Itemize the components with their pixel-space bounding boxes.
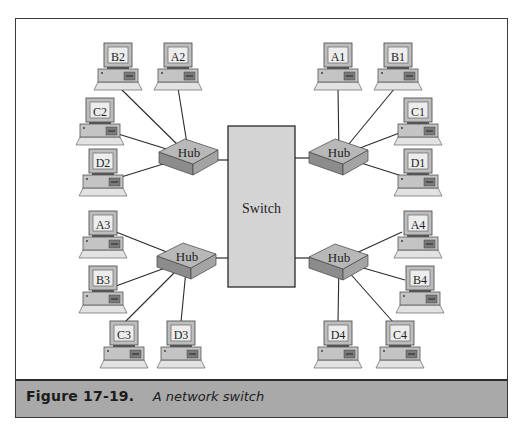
computer-b3: B3 — [79, 266, 127, 313]
keyboard-icon — [396, 305, 444, 313]
computer-label: D4 — [331, 328, 346, 342]
computer-label: C3 — [117, 328, 131, 342]
keyboard-icon — [374, 82, 422, 90]
computer-a2: A2 — [154, 43, 202, 90]
computer-d4: D4 — [314, 321, 362, 368]
computer-d2: D2 — [79, 149, 127, 196]
power-led-icon — [107, 350, 109, 352]
keyboard-icon — [79, 188, 127, 196]
switch-label: Switch — [242, 201, 281, 216]
hub-bottom-right: Hub — [309, 244, 368, 280]
computer-a4: A4 — [394, 211, 442, 258]
power-led-icon — [321, 72, 323, 74]
computer-d1: D1 — [394, 149, 442, 196]
computer-label: A2 — [171, 50, 186, 64]
computer-label: C1 — [411, 105, 425, 119]
keyboard-icon — [100, 360, 148, 368]
computer-c3: C3 — [100, 321, 148, 368]
power-led-icon — [401, 178, 403, 180]
power-led-icon — [83, 127, 85, 129]
power-led-icon — [86, 178, 88, 180]
network-diagram: Switch HubHubHubHub B2A2C2D2A1B1C1D1A3B3… — [0, 0, 526, 438]
keyboard-icon — [394, 188, 442, 196]
computer-a1: A1 — [314, 43, 362, 90]
computer-label: A3 — [96, 218, 111, 232]
power-led-icon — [164, 350, 166, 352]
keyboard-icon — [157, 360, 205, 368]
keyboard-icon — [314, 360, 362, 368]
computer-b4: B4 — [396, 266, 444, 313]
keyboard-icon — [79, 305, 127, 313]
computer-a3: A3 — [79, 211, 127, 258]
computer-c4: C4 — [376, 321, 424, 368]
power-led-icon — [401, 127, 403, 129]
power-led-icon — [401, 240, 403, 242]
hub-label: Hub — [328, 145, 350, 160]
computer-label: B1 — [391, 50, 405, 64]
power-led-icon — [86, 295, 88, 297]
keyboard-icon — [314, 82, 362, 90]
computer-label: D3 — [174, 328, 189, 342]
power-led-icon — [161, 72, 163, 74]
hub-label: Hub — [176, 249, 198, 264]
keyboard-icon — [154, 82, 202, 90]
computer-label: C2 — [93, 105, 107, 119]
computer-c2: C2 — [76, 98, 124, 145]
computer-d3: D3 — [157, 321, 205, 368]
switch: Switch — [228, 126, 295, 287]
hub-top-left: Hub — [159, 139, 218, 175]
power-led-icon — [101, 72, 103, 74]
keyboard-icon — [376, 360, 424, 368]
computer-label: C4 — [393, 328, 407, 342]
power-led-icon — [321, 350, 323, 352]
computer-label: B3 — [96, 273, 110, 287]
computer-label: A1 — [331, 50, 346, 64]
power-led-icon — [86, 240, 88, 242]
hub-label: Hub — [178, 145, 200, 160]
hub-top-right: Hub — [309, 139, 368, 175]
keyboard-icon — [394, 137, 442, 145]
computer-label: D1 — [411, 156, 426, 170]
hub-label: Hub — [328, 250, 350, 265]
computer-c1: C1 — [394, 98, 442, 145]
keyboard-icon — [394, 250, 442, 258]
keyboard-icon — [79, 250, 127, 258]
computer-label: B2 — [111, 50, 125, 64]
computer-label: D2 — [96, 156, 111, 170]
keyboard-icon — [76, 137, 124, 145]
computer-b2: B2 — [94, 43, 142, 90]
power-led-icon — [383, 350, 385, 352]
computer-label: B4 — [413, 273, 427, 287]
power-led-icon — [403, 295, 405, 297]
power-led-icon — [381, 72, 383, 74]
computer-label: A4 — [411, 218, 426, 232]
keyboard-icon — [94, 82, 142, 90]
computer-b1: B1 — [374, 43, 422, 90]
hub-bottom-left: Hub — [157, 243, 216, 279]
